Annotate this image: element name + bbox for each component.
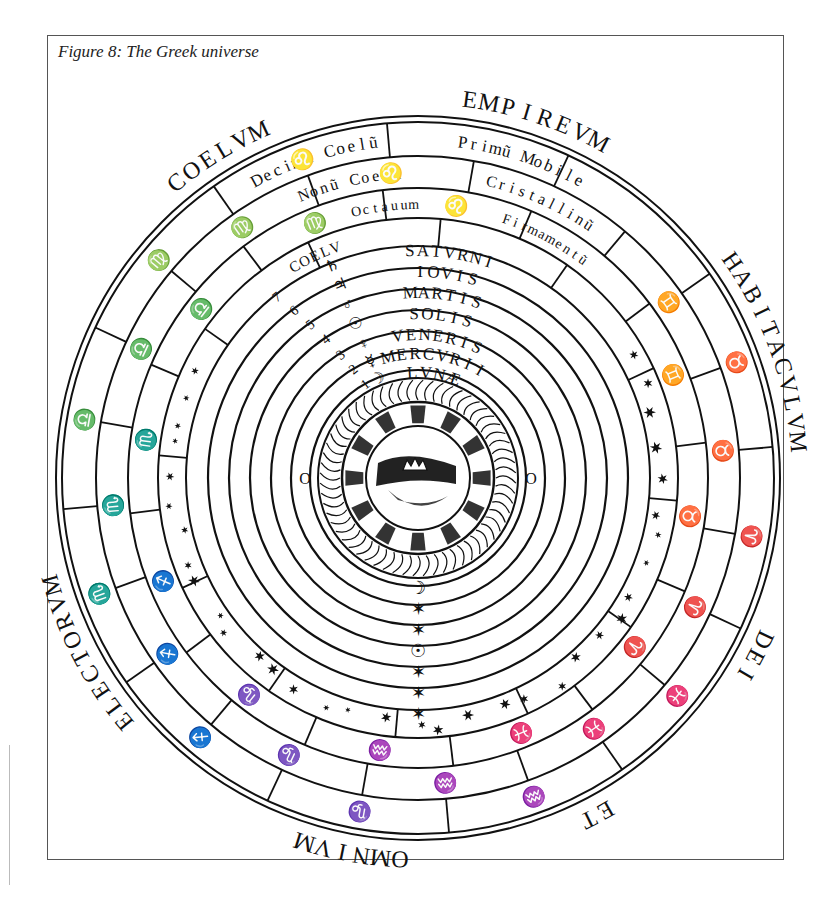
zodiac-divider (268, 770, 282, 801)
zodiac-divider (603, 742, 623, 770)
zodiac-sign: ♉ (677, 502, 704, 530)
zodiac-divider (446, 799, 449, 833)
label-decimum-coelum-char: e (346, 136, 357, 156)
label-primum-mobile-char: r (469, 134, 478, 154)
star-icon (323, 705, 330, 711)
zodiac-divider (450, 736, 454, 766)
label-crystallinum-char: r (497, 175, 507, 193)
zodiac-divider (657, 580, 685, 592)
earth-marker: O (525, 470, 537, 487)
star-icon (624, 593, 633, 602)
sphere-label-solis-char: S (409, 304, 419, 323)
zodiac-divider (214, 186, 234, 214)
zodiac-sign: ♏ (84, 578, 115, 610)
zodiac-sign: ♏ (100, 491, 126, 518)
label-octavum-char: a (381, 199, 390, 215)
zodiac-sign: ♎ (70, 405, 98, 434)
zodiac-divider (63, 506, 97, 509)
label-crystallinum-char: a (536, 190, 549, 208)
zodiac-sign: ♒ (366, 737, 394, 764)
label-crystallinum-char: l (556, 200, 568, 217)
zodiac-divider (626, 303, 650, 321)
inscription-char: O (391, 846, 410, 873)
zodiac-divider (604, 231, 625, 256)
sphere-label-saturni-char: N (467, 247, 484, 268)
label-crystallinum-char: l (546, 195, 558, 212)
cloud-block (473, 470, 491, 485)
zodiac-sign: ♉ (721, 346, 752, 378)
star-icon (500, 699, 511, 709)
zodiac-divider (628, 368, 653, 380)
zodiac-sign: ♌ (442, 192, 470, 219)
sphere-label-iovis-char: O (427, 262, 441, 282)
star-icon (220, 629, 228, 636)
zodiac-divider (126, 663, 154, 683)
sphere-label-martis-char: T (444, 285, 458, 306)
star-icon (289, 684, 298, 694)
star-icon (381, 712, 391, 723)
vertical-marker: ✶ (411, 683, 426, 703)
zodiac-divider (171, 271, 196, 292)
zodiac-divider (640, 664, 665, 685)
zodiac-divider (243, 246, 261, 270)
star-icon (655, 532, 662, 539)
star-icon (166, 473, 175, 481)
sphere-label-mercurii-char: E (395, 345, 408, 365)
zodiac-sign: ♏ (132, 426, 159, 454)
inscription-char: M (369, 844, 393, 872)
inscription-dei: DEI (733, 627, 780, 685)
label-primum-mobile-char: e (571, 170, 587, 190)
zodiac-sign: ♈ (738, 522, 766, 551)
label-firmamentum-char: F (500, 211, 512, 228)
zodiac-divider (517, 751, 528, 781)
label-primum-mobile-char: P (457, 132, 469, 152)
star-icon (658, 474, 668, 485)
sphere-label-solis-char: L (434, 305, 447, 325)
label-crystallinum-char: C (485, 172, 499, 191)
zodiac-sign: ♑ (231, 678, 265, 712)
sphere-label-iovis-char: I (455, 266, 465, 286)
planet-symbol-iovis: ♃ (330, 274, 350, 295)
star-icon (172, 438, 178, 444)
cloud-block (345, 470, 363, 485)
sphere-label-saturni-char: T (430, 241, 443, 261)
zodiac-divider (95, 328, 126, 342)
sphere-label-veneris-char: E (405, 325, 416, 344)
cloud-block (410, 405, 425, 423)
star-icon (255, 651, 265, 662)
sphere-label-martis-char: R (431, 283, 445, 303)
sphere-label-martis-char: M (402, 283, 418, 303)
zodiac-sign: ♑ (345, 798, 374, 826)
zodiac-divider (205, 329, 228, 345)
star-icon (165, 503, 172, 509)
inscription-char: L (778, 394, 806, 413)
sphere-label-iovis-char: S (466, 269, 480, 290)
star-icon (558, 682, 566, 691)
vertical-marker: ✶ (411, 599, 426, 619)
zodiac-sign: ♎ (184, 291, 218, 325)
zodiac-divider (516, 688, 528, 713)
star-icon (644, 378, 653, 388)
inscription-char: P (498, 93, 517, 121)
star-icon (629, 350, 638, 359)
sphere-number: 2 (346, 361, 361, 377)
zodiac-divider (305, 717, 317, 745)
zodiac-sign: ♈ (618, 630, 652, 664)
sphere-label-iovis-char: I (417, 262, 423, 281)
label-firmamentum-char: i (511, 215, 520, 230)
zodiac-sign: ♉ (710, 438, 736, 465)
sphere-label-saturni-char: S (405, 241, 415, 260)
inscription-char: V (774, 373, 804, 397)
planet-symbol-solis: ☉ (346, 313, 365, 334)
vertical-markers: ☽✶✶☉✶✶✶ (410, 578, 426, 724)
vertical-marker: ✶ (411, 704, 426, 724)
sphere-label-martis-char: A (417, 283, 431, 302)
label-octavum-char: u (390, 198, 398, 214)
label-nonum-coelum-char: o (360, 168, 371, 186)
star-icon (462, 710, 474, 721)
inscription-char: I (336, 839, 349, 866)
star-icon (571, 652, 581, 663)
label-octavum: Octauum (350, 197, 420, 220)
zodiac-divider (710, 614, 741, 628)
label-nonum-coelum-char: ũ (328, 175, 340, 194)
